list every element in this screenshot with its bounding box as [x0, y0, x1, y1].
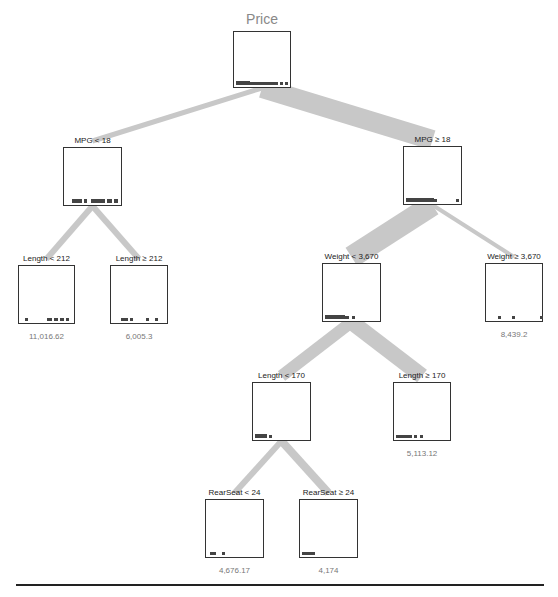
- distribution-tick: [325, 315, 345, 319]
- distribution-strip: [236, 80, 288, 85]
- split-label: Length ≥ 170: [399, 371, 446, 380]
- node-box: [233, 31, 291, 88]
- distribution-tick: [456, 199, 459, 202]
- distribution-tick: [146, 318, 149, 321]
- distribution-tick: [352, 316, 355, 319]
- distribution-tick: [420, 435, 423, 438]
- node-box: [485, 263, 543, 322]
- split-label: Length < 212: [23, 254, 70, 263]
- distribution-tick: [255, 434, 267, 438]
- distribution-tick: [280, 82, 283, 85]
- distribution-strip: [302, 550, 355, 555]
- distribution-tick: [512, 316, 515, 319]
- distribution-tick: [250, 82, 274, 85]
- leaf-value: 5,113.12: [407, 449, 438, 458]
- node-box: [63, 147, 122, 206]
- edge-root-to-mpg_lt_18: [93, 88, 263, 141]
- distribution-tick: [54, 318, 58, 321]
- distribution-tick: [269, 435, 272, 438]
- distribution-tick: [414, 435, 417, 438]
- distribution-tick: [60, 318, 64, 321]
- edge-weight_lt_3670-to-length_lt_170: [282, 322, 352, 376]
- distribution-tick: [66, 318, 69, 321]
- node-box: [299, 499, 358, 558]
- distribution-strip: [488, 314, 540, 319]
- distribution-strip: [325, 314, 378, 319]
- split-label: RearSeat < 24: [209, 488, 261, 497]
- leaf-value: 8,439.2: [501, 330, 528, 339]
- edge-mpg_ge_18-to-weight_ge_3670: [433, 205, 515, 257]
- edge-mpg_lt_18-to-length_ge_212: [93, 206, 140, 259]
- distribution-tick: [114, 199, 118, 203]
- distribution-tick: [396, 435, 412, 438]
- distribution-tick: [155, 318, 158, 321]
- split-label: Weight ≥ 3,670: [487, 252, 541, 261]
- distribution-tick: [91, 199, 105, 203]
- distribution-tick: [406, 198, 434, 202]
- node-box: [393, 382, 451, 441]
- distribution-tick: [540, 316, 543, 319]
- distribution-strip: [255, 433, 308, 438]
- split-label: Length ≥ 212: [116, 254, 163, 263]
- distribution-tick: [130, 318, 133, 321]
- distribution-strip: [396, 433, 448, 438]
- distribution-strip: [406, 197, 459, 202]
- distribution-tick: [107, 199, 112, 203]
- node-box: [403, 146, 462, 205]
- split-label: Length < 170: [258, 371, 305, 380]
- split-label: RearSeat ≥ 24: [303, 488, 355, 497]
- distribution-tick: [210, 552, 216, 555]
- node-box: [18, 265, 75, 324]
- edge-root-to-mpg_ge_18: [262, 88, 433, 140]
- distribution-tick: [345, 316, 349, 319]
- tree-edges: [0, 0, 558, 597]
- node-box: [205, 499, 264, 558]
- edge-mpg_ge_18-to-weight_lt_3670: [352, 205, 433, 257]
- distribution-tick: [434, 199, 437, 202]
- distribution-tick: [25, 318, 28, 321]
- bottom-rule: [16, 584, 544, 586]
- edge-length_lt_170-to-rearseat_lt_24: [235, 441, 282, 493]
- edge-length_lt_170-to-rearseat_ge_24: [282, 441, 329, 493]
- distribution-strip: [66, 198, 119, 203]
- split-label: MPG ≥ 18: [415, 135, 451, 144]
- distribution-strip: [21, 316, 72, 321]
- split-label: MPG < 18: [74, 136, 110, 145]
- distribution-tick: [121, 318, 128, 321]
- distribution-tick: [285, 82, 288, 85]
- distribution-tick: [302, 552, 315, 555]
- node-box: [110, 265, 168, 324]
- distribution-tick: [236, 81, 250, 85]
- leaf-value: 6,005.3: [126, 332, 153, 341]
- leaf-value: 11,016.62: [29, 332, 64, 341]
- distribution-strip: [113, 316, 165, 321]
- node-box: [322, 263, 381, 322]
- distribution-tick: [84, 199, 87, 203]
- distribution-tick: [498, 316, 501, 319]
- distribution-tick: [222, 552, 225, 555]
- distribution-tick: [47, 318, 52, 321]
- root-title: Price: [246, 11, 278, 27]
- distribution-tick: [274, 82, 278, 85]
- split-label: Weight < 3,670: [325, 252, 379, 261]
- node-box: [252, 382, 311, 441]
- leaf-value: 4,676.17: [219, 566, 250, 575]
- distribution-tick: [72, 199, 82, 203]
- edge-weight_lt_3670-to-length_ge_170: [352, 322, 423, 376]
- leaf-value: 4,174: [318, 566, 338, 575]
- edge-mpg_lt_18-to-length_lt_212: [47, 206, 93, 259]
- distribution-strip: [208, 550, 261, 555]
